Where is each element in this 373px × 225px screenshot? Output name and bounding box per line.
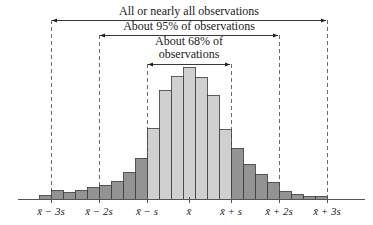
histogram-bar (160, 91, 172, 200)
histogram-bar (64, 193, 76, 200)
histogram-bar (76, 191, 88, 200)
coverage-annotations: All or nearly all observationsAbout 95% … (52, 4, 326, 67)
x-tick-label: x̄ − 2s (84, 205, 113, 217)
x-tick-label: x̄ + s (219, 205, 242, 217)
histogram-bar (220, 130, 232, 200)
x-tick-label: x̄ + 3s (312, 205, 341, 217)
histogram-bar (208, 96, 220, 200)
histogram-bar (196, 78, 208, 200)
x-tick-label: x̄ − s (135, 205, 158, 217)
annotation-label: observations (159, 47, 220, 61)
histogram-bar (268, 183, 280, 200)
histogram-chart: All or nearly all observationsAbout 95% … (0, 0, 373, 225)
annotation-label: All or nearly all observations (119, 4, 259, 18)
histogram-bar (124, 173, 136, 200)
histogram-bar (172, 77, 184, 200)
histogram-bar (148, 129, 160, 200)
x-tick-label: x̄ (186, 205, 192, 217)
histogram-bar (292, 195, 304, 200)
histogram-bar (112, 182, 124, 200)
histogram-bar (256, 175, 268, 200)
x-tick-label: x̄ − 3s (36, 205, 65, 217)
arrowhead-left-icon (100, 34, 105, 38)
annotation-label: About 95% of observations (123, 19, 255, 33)
histogram-bar (184, 68, 196, 200)
arrowhead-right-icon (273, 34, 278, 38)
histogram-bars (40, 68, 328, 200)
histogram-bar (100, 186, 112, 200)
x-tick-label: x̄ + 2s (264, 205, 293, 217)
arrowhead-left-icon (52, 19, 57, 23)
histogram-bar (52, 191, 64, 200)
arrowhead-right-icon (321, 19, 326, 23)
histogram-bar (244, 165, 256, 200)
histogram-bar (88, 188, 100, 200)
histogram-bar (280, 192, 292, 200)
annotation-label: About 68% of (155, 34, 223, 48)
histogram-bar (40, 196, 52, 200)
arrowhead-right-icon (225, 63, 230, 67)
arrowhead-left-icon (148, 63, 153, 67)
histogram-bar (136, 159, 148, 200)
histogram-bar (232, 149, 244, 200)
